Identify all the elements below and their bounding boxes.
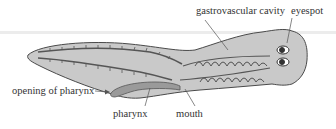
label-pharynx: pharynx <box>113 109 147 120</box>
planarian-illustration <box>0 0 336 129</box>
label-mouth: mouth <box>176 109 203 120</box>
label-opening-of-pharynx: opening of pharynx <box>12 86 94 97</box>
label-gastrovascular-cavity: gastrovascular cavity <box>196 6 285 17</box>
label-eyespot: eyespot <box>291 6 323 17</box>
planarian-diagram: gastrovascular cavity eyespot opening of… <box>0 0 336 129</box>
